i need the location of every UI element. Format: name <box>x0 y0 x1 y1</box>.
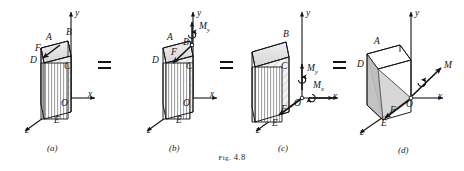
panel-a-axis-label-O: O <box>61 99 68 109</box>
panel-c-vertex-E: E <box>272 119 278 129</box>
panel-a-vertex-C: C <box>64 62 70 72</box>
panel-d-couple-M-label: M <box>444 61 452 71</box>
panel-d-axis-label-O: O <box>406 100 413 110</box>
panel-c-couple-Mx-label: Mx <box>313 81 324 92</box>
panel-b-force-F-label: F <box>171 48 177 58</box>
panel-b-vertex-D: D <box>152 56 159 66</box>
figure-caption-prefix: Fig. <box>218 154 231 162</box>
panel-d-vertex-E: E <box>381 119 387 129</box>
mechanics-figure-svg <box>0 0 464 171</box>
panel-b-axis-label-z: z <box>147 126 151 136</box>
equals-sign-2 <box>220 62 233 68</box>
panel-c-vertex-C: C <box>281 62 287 72</box>
panel-d-force-F-label: F <box>390 106 396 116</box>
panel-a <box>25 12 95 131</box>
panel-c-couple-My-label: My <box>307 64 318 75</box>
panel-a-vertex-D: D <box>30 56 37 66</box>
panel-d-axis-label-x: x <box>438 92 442 102</box>
panel-b-axis-label-y: y <box>197 9 201 19</box>
panel-a-vertex-B: B <box>66 28 72 38</box>
panel-c-force-F-label: F <box>281 105 287 115</box>
panel-d <box>360 12 443 133</box>
panel-b-couple-My-label: My <box>199 22 210 33</box>
panel-d-couple-M <box>412 68 441 96</box>
panel-c-front-face <box>252 67 282 122</box>
panel-b-vertex-B: B <box>183 38 189 48</box>
panel-b-axis-label-O: O <box>183 99 190 109</box>
panel-a-axis-label-x: x <box>88 90 92 100</box>
panel-a-axis-label-z: z <box>25 126 29 136</box>
panel-c-axis-label-z: z <box>256 126 260 136</box>
panel-a-axis-label-y: y <box>75 9 79 19</box>
equals-sign-1 <box>98 62 111 68</box>
panel-d-vertex-D: D <box>357 60 364 70</box>
equals-sign-3 <box>333 62 346 68</box>
panel-b-vertex-A: A <box>167 33 173 43</box>
panel-a-vertex-E: E <box>54 116 60 126</box>
panel-a-vertex-F: F <box>35 44 41 54</box>
panel-b-vertex-E: E <box>176 116 182 126</box>
panel-a-vertex-A: A <box>46 33 52 43</box>
panel-d-axis-label-z: z <box>360 128 364 138</box>
panel-c-axis-label-O: O <box>294 99 301 109</box>
figure-canvas: y x z O A B C D E F (a) y x z O A B C D … <box>0 0 464 171</box>
panel-d-axis-label-y: y <box>415 9 419 19</box>
figure-caption: Fig. 4.8 <box>0 152 464 162</box>
panel-c-vertex-B: B <box>283 30 289 40</box>
figure-caption-number: 4.8 <box>234 152 246 162</box>
panel-c <box>252 12 338 131</box>
panel-b-vertex-C: C <box>186 62 192 72</box>
panel-d-vertex-A: A <box>374 37 380 47</box>
panel-b-axis-label-x: x <box>210 90 214 100</box>
panel-c-axis-label-x: x <box>333 92 337 102</box>
panel-c-axis-label-y: y <box>306 9 310 19</box>
